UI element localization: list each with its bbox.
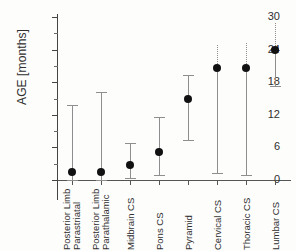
y-tick [52, 115, 58, 116]
data-point-marker [126, 161, 134, 169]
data-point-marker [97, 168, 105, 176]
error-bar-cap-upper [67, 105, 78, 106]
y-tick [52, 147, 58, 148]
x-tick [217, 180, 218, 185]
error-bar-cap-lower [67, 180, 78, 181]
x-axis-label-line: Parathalamic [101, 186, 111, 250]
y-tick-minor [54, 131, 58, 132]
x-axis-label-line: Parastriatal [72, 186, 82, 250]
error-bar-lower [217, 68, 218, 173]
error-bar-cap-upper [96, 92, 107, 93]
x-axis-label: Posterior LimbParastriatal [62, 186, 82, 250]
error-bar-cap-lower [270, 86, 281, 87]
data-point-marker [213, 64, 221, 72]
x-tick [159, 180, 160, 185]
x-axis-label: Midbrain CS [126, 186, 136, 250]
y-tick-minor [54, 33, 58, 34]
x-axis-label: Pyramid [184, 186, 194, 250]
error-bar-cap-lower [154, 175, 165, 176]
y-tick-minor [54, 164, 58, 165]
y-tick-minor [54, 66, 58, 67]
x-axis-label: Lumbar CS [271, 186, 281, 250]
y-tick [52, 82, 58, 83]
error-bar-cap-lower [183, 140, 194, 141]
x-tick [246, 180, 247, 185]
x-axis-label: Thoracic CS [242, 186, 252, 250]
data-point-marker [155, 148, 163, 156]
y-tick [52, 17, 58, 18]
data-point-marker [242, 64, 250, 72]
x-axis-label-line: Midbrain CS [126, 186, 136, 250]
y-tick-minor [54, 99, 58, 100]
x-axis-label-line: Pyramid [184, 186, 194, 250]
error-bar-lower [275, 50, 276, 86]
error-bar-lower [246, 68, 247, 175]
error-bar-cap-lower [212, 173, 223, 174]
y-axis-title: AGE [months] [15, 0, 29, 137]
error-bar-upper [159, 117, 160, 152]
x-axis-label-line: Thoracic CS [242, 186, 252, 250]
plot-area: 0612182430 [57, 17, 290, 180]
error-bar-cap-upper [125, 143, 136, 144]
error-bar-lower [188, 99, 189, 140]
x-axis-label-line: Pons CS [155, 186, 165, 250]
x-axis-label-line: Cervical CS [213, 186, 223, 250]
error-bar-upper [101, 92, 102, 172]
data-point-marker [68, 168, 76, 176]
y-axis-line [57, 14, 58, 200]
error-bar-cap-lower [96, 180, 107, 181]
x-axis-labels: Posterior LimbParastriatalPosterior Limb… [57, 186, 290, 251]
x-tick [130, 180, 131, 185]
y-tick-label: 30 [240, 11, 280, 22]
x-tick [275, 180, 276, 185]
x-axis-label: Posterior LimbParathalamic [91, 186, 111, 250]
x-axis-label-line: Lumbar CS [271, 186, 281, 250]
error-bar-cap-lower [125, 178, 136, 179]
error-bar-cap-upper [183, 75, 194, 76]
chart-figure: AGE [months] 0612182430 Posterior LimbPa… [0, 0, 296, 251]
error-bar-cap-lower [241, 175, 252, 176]
x-tick [188, 180, 189, 185]
x-axis-label: Cervical CS [213, 186, 223, 250]
y-tick [52, 180, 58, 181]
error-bar-cap-upper [154, 117, 165, 118]
data-point-marker [184, 95, 192, 103]
x-axis-label: Pons CS [155, 186, 165, 250]
error-bar-upper [72, 105, 73, 172]
y-tick [52, 50, 58, 51]
